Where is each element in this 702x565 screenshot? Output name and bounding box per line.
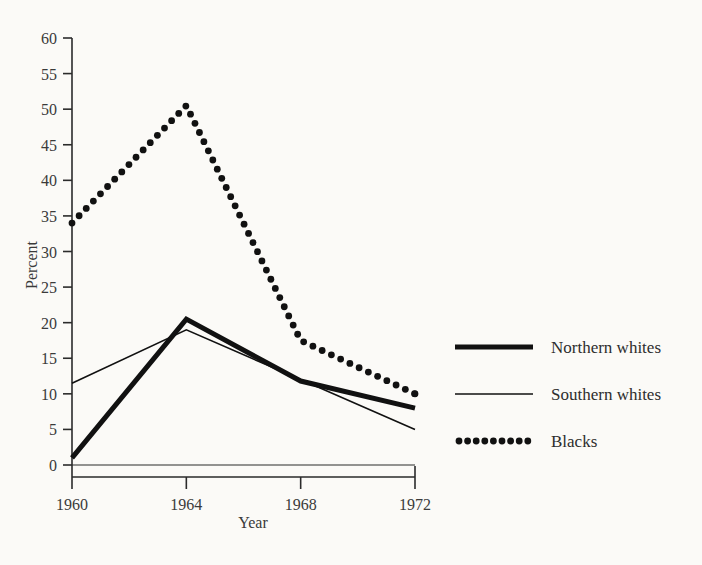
legend-label: Blacks xyxy=(551,432,597,451)
data-point-dot xyxy=(328,351,335,358)
legend-label: Southern whites xyxy=(551,385,661,404)
data-point-dot xyxy=(300,338,307,345)
series-northern-whites xyxy=(72,319,415,458)
x-tick-label: 1964 xyxy=(170,496,202,513)
legend-dot-swatch xyxy=(456,438,463,445)
y-tick-label: 0 xyxy=(49,457,57,474)
data-point-dot xyxy=(263,267,270,274)
data-point-dot xyxy=(272,285,279,292)
data-point-dot xyxy=(365,369,372,376)
data-point-dot xyxy=(196,129,203,136)
data-point-dot xyxy=(218,175,225,182)
data-point-dot xyxy=(241,221,248,228)
y-tick-label: 55 xyxy=(41,66,57,83)
data-point-dot xyxy=(76,212,83,219)
data-point-dot xyxy=(147,139,154,146)
y-tick-label: 35 xyxy=(41,208,57,225)
y-tick-label: 5 xyxy=(49,421,57,438)
legend-dot-swatch xyxy=(481,438,488,445)
data-point-dot xyxy=(83,205,90,212)
data-point-dot xyxy=(182,103,189,110)
series-blacks xyxy=(69,103,419,398)
data-point-dot xyxy=(281,303,288,310)
x-axis-line xyxy=(72,466,415,477)
data-point-dot xyxy=(285,313,292,320)
y-tick-label: 45 xyxy=(41,137,57,154)
x-axis-title: Year xyxy=(238,514,268,531)
data-point-dot xyxy=(209,157,216,164)
legend-item[interactable]: Blacks xyxy=(456,432,598,451)
y-tick-label: 30 xyxy=(41,244,57,261)
y-axis-tick-labels: 051015202530354045505560 xyxy=(41,30,57,474)
data-point-dot xyxy=(356,364,363,371)
data-point-dot xyxy=(154,132,161,139)
data-point-dot xyxy=(402,386,409,393)
data-point-dot xyxy=(168,117,175,124)
y-axis-title: Percent xyxy=(23,240,40,289)
legend-dot-swatch xyxy=(516,438,523,445)
data-point-dot xyxy=(140,147,147,154)
legend-dot-swatch xyxy=(490,438,497,445)
y-tick-label: 20 xyxy=(41,315,57,332)
series-line xyxy=(72,330,415,430)
data-point-dot xyxy=(232,202,239,209)
data-point-dot xyxy=(133,154,140,161)
legend-dot-swatch xyxy=(464,438,471,445)
data-point-dot xyxy=(161,125,168,132)
data-point-dot xyxy=(319,347,326,354)
series-layer xyxy=(69,103,419,458)
data-point-dot xyxy=(90,198,97,205)
data-point-dot xyxy=(290,322,297,329)
data-point-dot xyxy=(276,294,283,301)
data-point-dot xyxy=(393,382,400,389)
x-axis-tick-labels: 1960196419681972 xyxy=(56,496,431,513)
series-line xyxy=(72,319,415,458)
data-point-dot xyxy=(250,239,257,246)
data-point-dot xyxy=(374,373,381,380)
y-tick-label: 40 xyxy=(41,172,57,189)
data-point-dot xyxy=(337,356,344,363)
y-axis-ticks xyxy=(63,38,72,465)
data-point-dot xyxy=(267,276,274,283)
data-point-dot xyxy=(205,147,212,154)
data-point-dot xyxy=(214,166,221,173)
chart-container: 051015202530354045505560 196019641968197… xyxy=(0,0,702,565)
data-point-dot xyxy=(104,183,111,190)
data-point-dot xyxy=(346,360,353,367)
data-point-dot xyxy=(97,190,104,197)
x-tick-label: 1960 xyxy=(56,496,88,513)
data-point-dot xyxy=(236,212,243,219)
data-point-dot xyxy=(254,248,261,255)
legend-item[interactable]: Southern whites xyxy=(455,385,661,404)
data-point-dot xyxy=(187,111,194,118)
data-point-dot xyxy=(412,390,419,397)
data-point-dot xyxy=(259,257,266,264)
x-axis-ticks xyxy=(72,477,415,489)
legend-item[interactable]: Northern whites xyxy=(455,338,661,357)
data-point-dot xyxy=(69,220,76,227)
x-tick-label: 1972 xyxy=(399,496,431,513)
y-tick-label: 15 xyxy=(41,350,57,367)
data-point-dot xyxy=(383,377,390,384)
y-tick-label: 25 xyxy=(41,279,57,296)
data-point-dot xyxy=(118,168,125,175)
data-point-dot xyxy=(294,331,301,338)
legend-label: Northern whites xyxy=(551,338,661,357)
y-tick-label: 60 xyxy=(41,30,57,47)
data-point-dot xyxy=(192,120,199,127)
series-southern-whites xyxy=(72,330,415,430)
y-tick-label: 50 xyxy=(41,101,57,118)
data-point-dot xyxy=(245,230,252,237)
data-point-dot xyxy=(310,343,317,350)
y-tick-label: 10 xyxy=(41,386,57,403)
data-point-dot xyxy=(126,161,133,168)
chart-legend: Northern whitesSouthern whitesBlacks xyxy=(455,338,661,451)
legend-dot-swatch xyxy=(524,438,531,445)
legend-dot-swatch xyxy=(473,438,480,445)
data-point-dot xyxy=(111,176,118,183)
legend-dot-swatch xyxy=(507,438,514,445)
data-point-dot xyxy=(223,184,230,191)
data-point-dot xyxy=(227,193,234,200)
line-chart: 051015202530354045505560 196019641968197… xyxy=(0,0,702,565)
data-point-dot xyxy=(200,138,207,145)
